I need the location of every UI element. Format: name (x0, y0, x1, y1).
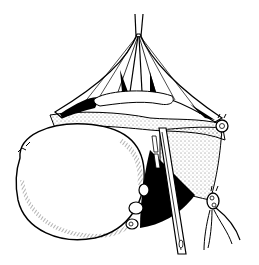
illustration-canvas (0, 0, 259, 265)
suture-threads-top (135, 14, 143, 36)
vessel-bundle-right (204, 208, 240, 250)
large-oval-mass (16, 124, 144, 240)
retracted-tissue-tent (55, 34, 222, 122)
surgical-illustration (0, 0, 259, 265)
